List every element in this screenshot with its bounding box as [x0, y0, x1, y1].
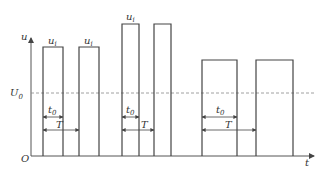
- pulse-group1-1: [43, 47, 63, 156]
- pulse-group1-2: [79, 47, 99, 156]
- period-label: T: [225, 119, 233, 130]
- pulse-label: ui: [84, 35, 93, 48]
- pulse-label: ui: [126, 11, 135, 24]
- t0-label: t0: [216, 104, 225, 117]
- t0-label: t0: [48, 104, 57, 117]
- pulse-group2-2: [154, 24, 171, 156]
- origin-label: O: [21, 153, 29, 164]
- pulse-group3-2: [256, 60, 293, 156]
- x-axis-label: t: [305, 157, 310, 168]
- y-axis-label: u: [21, 31, 27, 42]
- t0-label: t0: [126, 104, 135, 117]
- period-label: T: [141, 119, 149, 130]
- u0-label: U0: [10, 87, 23, 101]
- pulse-diagram: u t O U0 ui ui ui t0 T t0 T t0 T: [0, 0, 329, 174]
- pulse-label: ui: [48, 35, 57, 48]
- pulse-group2-1: [122, 24, 139, 156]
